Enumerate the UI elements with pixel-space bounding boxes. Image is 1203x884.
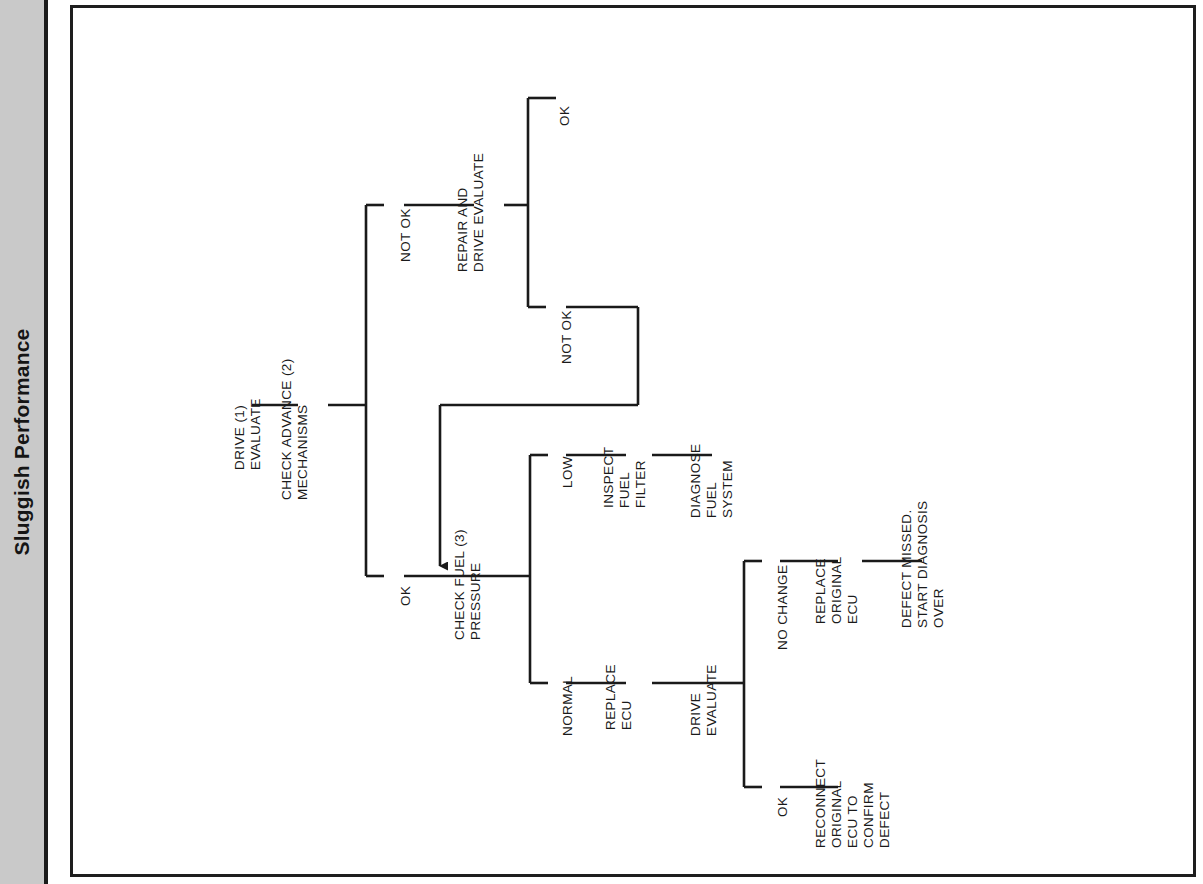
- node-reconnect-line-2: ECU TO: [845, 759, 861, 848]
- node-check-fuel-line-1: PRESSURE: [468, 529, 484, 640]
- node-diagnose-line-2: SYSTEM: [720, 444, 736, 518]
- node-replace-orig-line-2: ECU: [845, 556, 861, 624]
- node-check-fuel-line-0: CHECK FUEL (3): [452, 529, 468, 640]
- node-replace-orig-line-0: REPLACE: [813, 556, 829, 624]
- branch-label-fuel-low: LOW: [560, 456, 576, 488]
- node-diagnose-line-0: DIAGNOSE: [688, 444, 704, 518]
- branch-label-advance-ok: OK: [398, 586, 414, 606]
- node-defect-missed: DEFECT MISSED. START DIAGNOSIS OVER: [899, 500, 947, 628]
- node-check-advance-line-1: MECHANISMS: [295, 358, 311, 500]
- node-drive-evaluate-2: DRIVE EVALUATE: [688, 664, 720, 736]
- branch-label-drive-ok: OK: [775, 797, 791, 817]
- node-check-advance-line-0: CHECK ADVANCE (2): [279, 358, 295, 500]
- node-drive-evaluate-1: DRIVE (1) EVALUATE: [232, 398, 264, 470]
- node-replace-ecu: REPLACE ECU: [603, 664, 635, 730]
- node-inspect-line-2: FILTER: [633, 447, 649, 508]
- branch-label-drive-no-change: NO CHANGE: [775, 565, 791, 650]
- node-check-fuel-pressure: CHECK FUEL (3) PRESSURE: [452, 529, 484, 640]
- node-drive-evaluate-2-line-0: DRIVE: [688, 664, 704, 736]
- node-defect-missed-line-2: OVER: [931, 500, 947, 628]
- node-reconnect-line-4: DEFECT: [877, 759, 893, 848]
- node-replace-original-ecu: REPLACE ORIGINAL ECU: [813, 556, 861, 624]
- node-drive-evaluate-1-line-1: EVALUATE: [248, 398, 264, 470]
- node-check-advance-mechanisms: CHECK ADVANCE (2) MECHANISMS: [279, 358, 311, 500]
- node-repair-line-0: REPAIR AND: [455, 153, 471, 272]
- node-reconnect-line-1: ORIGINAL: [829, 759, 845, 848]
- node-repair-and-drive-evaluate: REPAIR AND DRIVE EVALUATE: [455, 153, 487, 272]
- node-reconnect-line-0: RECONNECT: [813, 759, 829, 848]
- chapter-title: Sluggish Performance: [10, 329, 34, 556]
- node-reconnect-original-ecu: RECONNECT ORIGINAL ECU TO CONFIRM DEFECT: [813, 759, 893, 848]
- node-diagnose-line-1: FUEL: [704, 444, 720, 518]
- branch-label-repair-not-ok: NOT OK: [559, 310, 575, 364]
- node-drive-evaluate-2-line-1: EVALUATE: [704, 664, 720, 736]
- branch-label-advance-not-ok: NOT OK: [398, 208, 414, 262]
- node-diagnose-fuel-system: DIAGNOSE FUEL SYSTEM: [688, 444, 736, 518]
- node-replace-orig-line-1: ORIGINAL: [829, 556, 845, 624]
- branch-label-repair-ok: OK: [557, 106, 573, 126]
- node-replace-ecu-line-0: REPLACE: [603, 664, 619, 730]
- node-repair-line-1: DRIVE EVALUATE: [471, 153, 487, 272]
- branch-label-fuel-normal: NORMAL: [560, 676, 576, 736]
- chapter-side-tab: Sluggish Performance: [0, 0, 48, 884]
- node-inspect-fuel-filter: INSPECT FUEL FILTER: [601, 447, 649, 508]
- node-defect-missed-line-1: START DIAGNOSIS: [915, 500, 931, 628]
- node-reconnect-line-3: CONFIRM: [861, 759, 877, 848]
- chapter-side-tab-inner: Sluggish Performance: [0, 0, 44, 884]
- node-replace-ecu-line-1: ECU: [619, 664, 635, 730]
- node-inspect-line-1: FUEL: [617, 447, 633, 508]
- node-defect-missed-line-0: DEFECT MISSED.: [899, 500, 915, 628]
- node-inspect-line-0: INSPECT: [601, 447, 617, 508]
- node-drive-evaluate-1-line-0: DRIVE (1): [232, 398, 248, 470]
